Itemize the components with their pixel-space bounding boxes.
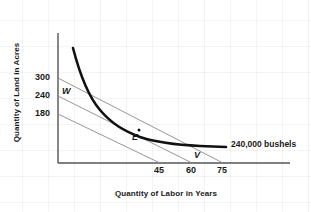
- y-tick-label-180: 180: [35, 108, 50, 118]
- x-tick-label-60: 60: [186, 165, 196, 175]
- plot-area: [0, 0, 311, 212]
- y-tick-label-240: 240: [35, 90, 50, 100]
- intersection-label-v: V: [194, 150, 200, 160]
- isoquant-isocost-figure: Quantity of Land in Acres Quantity of La…: [0, 0, 311, 212]
- isoquant-output-label: 240,000 bushels: [231, 139, 296, 149]
- x-axis-title: Quantity of Labor in Years: [86, 189, 246, 198]
- isocost-label-w: W: [62, 86, 71, 96]
- y-axis-title: Quantity of Land in Acres: [12, 33, 21, 153]
- y-tick-label-300: 300: [35, 72, 50, 82]
- x-tick-label-45: 45: [154, 165, 164, 175]
- x-tick-label-75: 75: [217, 165, 227, 175]
- tangency-label-e: E: [132, 132, 138, 142]
